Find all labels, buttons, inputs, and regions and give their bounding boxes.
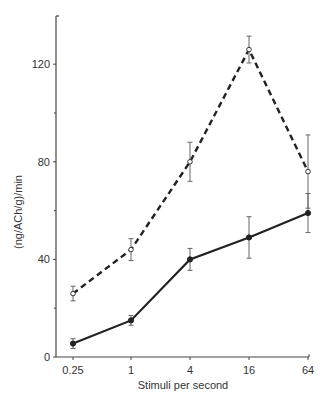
data-point-open [129,247,134,252]
data-point-open [247,47,252,52]
y-tick-label: 40 [38,253,50,265]
x-tick-label: 1 [128,364,134,376]
x-axis-title: Stimuli per second [138,379,229,391]
y-tick-label: 0 [44,351,50,363]
data-point-open [188,160,193,165]
y-tick-label: 120 [32,58,50,70]
y-tick-labels: 04080120 [32,58,50,363]
data-point-filled [128,318,133,323]
series-filled-solid [70,194,310,349]
data-point-open [306,169,311,174]
y-tick-label: 80 [38,156,50,168]
x-tick-label: 0.25 [62,364,83,376]
data-point-filled [246,235,251,240]
y-axis-title: (ng/ACh/g)/min [12,175,24,249]
data-point-filled [305,210,310,215]
data-point-open [71,291,76,296]
x-tick-label: 4 [187,364,193,376]
series-line [73,213,308,344]
data-point-filled [187,257,192,262]
line-chart: 04080120 0.25141664 Stimuli per second (… [0,0,331,404]
x-tick-labels: 0.25141664 [62,364,314,376]
data-point-filled [70,341,75,346]
x-tick-label: 16 [243,364,255,376]
axes [53,16,309,360]
x-tick-label: 64 [302,364,314,376]
data-series [70,36,310,348]
